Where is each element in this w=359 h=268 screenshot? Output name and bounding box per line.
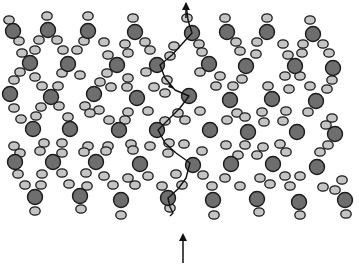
small-atom <box>275 140 285 148</box>
small-atom <box>81 169 91 177</box>
large-atom <box>224 157 239 172</box>
large-atom <box>326 61 341 76</box>
small-atom <box>284 85 294 93</box>
large-atom <box>3 87 18 102</box>
small-atom <box>53 82 63 90</box>
direction-arrows <box>183 6 186 263</box>
small-atom <box>257 108 267 116</box>
small-atom <box>52 36 62 44</box>
small-atom <box>215 72 225 80</box>
small-atom <box>42 12 52 20</box>
large-atom <box>114 193 129 208</box>
small-atom <box>85 109 95 117</box>
small-atom <box>281 148 291 156</box>
large-atom <box>290 125 305 140</box>
large-atom <box>110 58 125 73</box>
small-atom <box>140 38 150 46</box>
small-atom <box>128 14 138 22</box>
small-atom <box>95 78 105 86</box>
small-atom <box>228 82 238 90</box>
large-atom <box>150 123 165 138</box>
small-atom <box>298 40 308 48</box>
large-atom <box>206 193 221 208</box>
small-atom <box>17 49 27 57</box>
small-atom <box>20 181 30 189</box>
small-atom <box>128 146 138 154</box>
small-atom <box>255 174 265 182</box>
large-atom <box>202 57 217 72</box>
small-atom <box>104 116 114 124</box>
small-atom <box>123 74 133 82</box>
large-atom <box>292 195 307 210</box>
large-atom <box>26 122 41 137</box>
small-atom <box>197 48 207 56</box>
small-atom <box>9 76 19 84</box>
small-atom <box>324 49 334 57</box>
small-atom <box>36 103 46 111</box>
small-atom <box>180 116 190 124</box>
large-atom <box>6 24 21 39</box>
small-atom <box>258 143 268 151</box>
small-atom <box>15 68 25 76</box>
small-atoms <box>4 12 351 219</box>
small-atom <box>106 83 116 91</box>
small-atom <box>254 208 264 216</box>
large-atom <box>260 25 275 40</box>
small-atom <box>240 141 250 149</box>
small-atom <box>295 211 305 219</box>
small-atom <box>240 113 250 121</box>
small-atom <box>318 40 328 48</box>
large-atom <box>133 157 148 172</box>
small-atom <box>211 82 221 90</box>
small-atom <box>57 139 67 147</box>
small-atom <box>278 40 288 48</box>
large-atom <box>220 25 235 40</box>
small-atom <box>303 108 313 116</box>
small-atom <box>305 82 315 90</box>
small-atom <box>99 38 109 46</box>
small-atom <box>75 71 85 79</box>
small-atom <box>36 181 46 189</box>
small-atom <box>283 51 293 59</box>
large-atom <box>28 190 43 205</box>
small-atom <box>281 107 291 115</box>
large-atom <box>328 127 343 142</box>
large-atom <box>241 125 256 140</box>
small-atom <box>337 176 347 184</box>
large-atom <box>130 91 145 106</box>
small-atom <box>16 115 26 123</box>
small-atom <box>278 117 288 125</box>
small-atom <box>194 40 204 48</box>
small-atom <box>222 116 232 124</box>
small-atom <box>141 68 151 76</box>
large-atom <box>265 92 280 107</box>
small-atom <box>285 182 295 190</box>
large-atom <box>128 25 143 40</box>
small-atom <box>30 207 40 215</box>
small-atom <box>171 170 181 178</box>
small-atom <box>149 83 159 91</box>
large-atom <box>310 160 325 175</box>
large-atom <box>112 123 127 138</box>
small-atom <box>64 180 74 188</box>
large-atom <box>41 23 56 38</box>
small-atom <box>13 170 23 178</box>
small-atom <box>318 183 328 191</box>
small-atom <box>235 182 245 190</box>
large-atom <box>338 193 353 208</box>
large-atom <box>203 123 218 138</box>
small-atom <box>195 107 205 115</box>
small-atom <box>99 172 109 180</box>
small-atom <box>157 182 167 190</box>
small-atom <box>123 108 133 116</box>
small-atom <box>280 72 290 80</box>
small-atom <box>209 211 219 219</box>
small-atom <box>237 75 247 83</box>
small-atom <box>323 141 333 149</box>
small-atom <box>58 46 68 54</box>
small-atom <box>130 181 140 189</box>
small-atom <box>31 112 41 120</box>
small-atom <box>179 140 189 148</box>
small-atom <box>330 186 340 194</box>
small-atom <box>30 46 40 54</box>
